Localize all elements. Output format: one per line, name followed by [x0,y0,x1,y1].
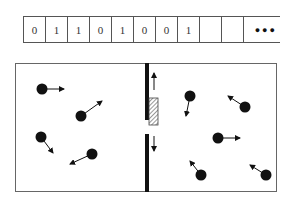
molecule [228,96,251,113]
molecule-ball [87,149,98,160]
wall-bottom-segment [145,134,149,192]
molecule-ball [185,91,196,102]
molecule-ball [76,111,87,122]
molecule-ball [36,132,47,143]
molecule-ball [213,133,224,144]
wall-top-segment [145,63,149,120]
molecule-ball [37,84,48,95]
molecule-ball [261,170,272,181]
molecule [190,161,207,181]
molecule-ball [196,170,207,181]
trap-door [149,98,158,125]
molecule [36,132,54,154]
maxwell-demon-chamber [0,0,292,203]
molecule [185,91,196,117]
molecule [250,165,272,181]
molecule [213,133,241,144]
molecule [76,101,103,122]
molecule-ball [240,102,251,113]
molecule [70,149,98,165]
molecule [37,84,65,95]
